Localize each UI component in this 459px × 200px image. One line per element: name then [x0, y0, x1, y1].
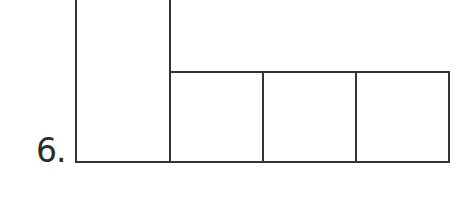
square-unit-3: [356, 72, 449, 162]
tall-rectangle: [76, 0, 170, 162]
composite-shape-figure: [0, 0, 459, 200]
square-unit-1: [170, 72, 263, 162]
square-unit-2: [263, 72, 356, 162]
